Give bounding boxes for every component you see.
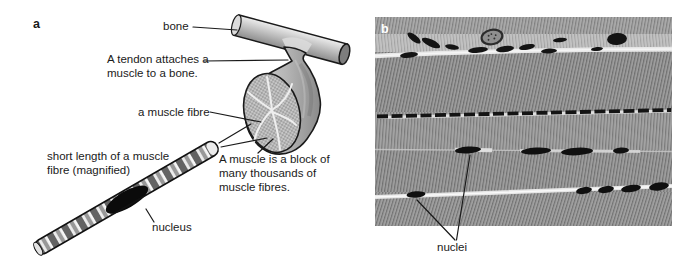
tendon-label-line2: muscle to a bone. xyxy=(107,67,198,79)
fibre-band-4 xyxy=(375,112,672,154)
muscle-block-label-line2: many thousands of xyxy=(219,167,317,179)
panel-a-marker: a xyxy=(33,17,41,31)
fibre-band-3 xyxy=(375,52,672,118)
short-length-label-line1: short length of a muscle xyxy=(47,150,169,162)
muscle-fibre-label: a muscle fibre xyxy=(138,106,210,118)
micrograph-photo xyxy=(375,17,672,226)
tendon-label-line1: A tendon attaches a xyxy=(107,53,209,65)
magnification-line-upper xyxy=(219,124,251,143)
panel-b-marker: b xyxy=(381,22,389,36)
fibre-band-1 xyxy=(375,17,672,35)
nuclei-label: nuclei xyxy=(437,241,467,253)
bone-label: bone xyxy=(163,20,189,32)
tendon-leader-line xyxy=(204,60,288,61)
panel-a-illustration: a xyxy=(0,0,375,272)
nucleus-label: nucleus xyxy=(152,221,192,233)
bone-leader-line xyxy=(193,27,237,30)
muscle-block-label-line3: muscle fibres. xyxy=(219,181,290,193)
short-length-label-line2: fibre (magnified) xyxy=(47,164,130,176)
muscle-block-label-line1: A muscle is a block of xyxy=(219,153,330,165)
figure-muscle-structure: a xyxy=(0,0,696,272)
panel-b-micrograph: b nuclei xyxy=(375,0,696,272)
